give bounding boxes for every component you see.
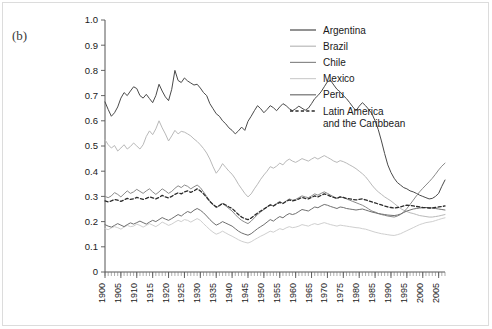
x-tick-label: 1970	[319, 283, 329, 303]
series-line-argentina	[105, 70, 445, 199]
legend-label-mexico: Mexico	[323, 73, 355, 84]
y-tick-label: 0.5	[85, 140, 98, 151]
series-line-brazil	[105, 121, 445, 217]
x-tick-label: 1905	[113, 283, 123, 303]
y-tick-label: 0.9	[85, 40, 98, 51]
y-tick-label: 0.3	[85, 191, 98, 202]
x-tick-label: 1985	[367, 283, 377, 303]
x-tick-label: 1975	[335, 283, 345, 303]
series-line-latin-america-and-the-caribbean	[105, 189, 445, 220]
y-tick-label: 0.7	[85, 90, 98, 101]
y-tick-label: 0.1	[85, 241, 98, 252]
x-tick-label: 2000	[415, 283, 425, 303]
x-tick-label: 1920	[161, 283, 171, 303]
x-tick-label: 1930	[192, 283, 202, 303]
y-tick-label: 0	[93, 266, 98, 277]
legend-label-chile: Chile	[323, 57, 346, 68]
chart-plot-area: 00.10.20.30.40.50.60.70.80.91.0190019051…	[0, 0, 492, 329]
y-tick-label: 0.2	[85, 216, 98, 227]
x-tick-label: 1945	[240, 283, 250, 303]
x-tick-label: 1910	[129, 283, 139, 303]
x-tick-label: 1925	[176, 283, 186, 303]
legend-label-latin-america: Latin America	[323, 106, 384, 117]
y-tick-label: 0.6	[85, 115, 98, 126]
legend-label-peru: Peru	[323, 89, 344, 100]
legend-label-argentina: Argentina	[323, 25, 366, 36]
x-tick-label: 1950	[256, 283, 266, 303]
x-tick-label: 2005	[431, 283, 441, 303]
y-tick-label: 0.8	[85, 65, 98, 76]
x-tick-label: 1960	[288, 283, 298, 303]
figure-panel: (b) 00.10.20.30.40.50.60.70.80.91.019001…	[0, 0, 492, 329]
x-tick-label: 1935	[208, 283, 218, 303]
x-tick-label: 1995	[399, 283, 409, 303]
x-tick-label: 1965	[304, 283, 314, 303]
line-chart-svg: 00.10.20.30.40.50.60.70.80.91.0190019051…	[0, 0, 492, 329]
y-tick-label: 1.0	[85, 14, 98, 25]
x-tick-label: 1900	[97, 283, 107, 303]
y-tick-label: 0.4	[85, 166, 98, 177]
x-tick-label: 1940	[224, 283, 234, 303]
series-line-peru	[105, 204, 445, 235]
x-tick-label: 1915	[145, 283, 155, 303]
x-tick-label: 1955	[272, 283, 282, 303]
x-tick-label: 1980	[351, 283, 361, 303]
x-tick-label: 1990	[383, 283, 393, 303]
series-line-chile	[105, 163, 445, 223]
legend-label-continuation: and the Caribbean	[323, 118, 405, 129]
legend-label-brazil: Brazil	[323, 41, 348, 52]
